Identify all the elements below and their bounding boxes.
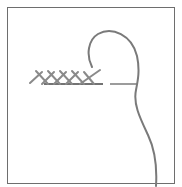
stitch-diagram — [0, 0, 182, 187]
cross-stitches — [30, 70, 100, 84]
thread-icon — [89, 31, 157, 186]
